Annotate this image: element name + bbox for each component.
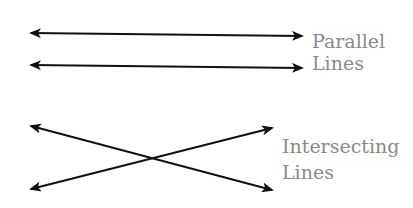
parallel-line-top [31,33,302,36]
parallel-label: Parallel Lines [312,30,385,74]
parallel-label-line1: Parallel [312,30,385,52]
intersecting-label-line1: Intersecting [282,133,399,159]
intersecting-label-line2: Lines [282,159,399,185]
intersecting-label: Intersecting Lines [282,133,399,185]
parallel-label-line2: Lines [312,52,385,74]
parallel-line-bottom [31,65,302,68]
